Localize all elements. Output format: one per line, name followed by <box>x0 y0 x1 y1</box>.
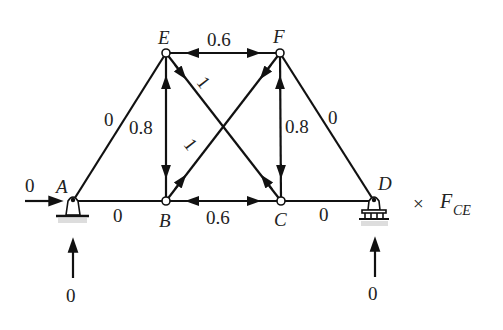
force-label-BC: 0.6 <box>206 207 230 228</box>
truss-diagram: E F A B C D 0 0 0.6 0 0.6 0.8 0.8 1 1 0 … <box>0 0 503 330</box>
node-label-F: F <box>272 26 285 47</box>
arrow-CE-upper <box>175 65 182 74</box>
arrow-BF-upper <box>264 65 271 74</box>
multiplier-F: F <box>439 190 453 212</box>
multiplier-subscript: CE <box>453 203 471 218</box>
force-label-AB: 0 <box>113 205 123 226</box>
node-label-A: A <box>54 176 68 197</box>
joint-E <box>162 49 170 57</box>
force-label-BE: 0.8 <box>129 117 153 138</box>
arrow-CE-lower <box>265 180 272 189</box>
force-label-BF: 1 <box>180 134 202 154</box>
force-label-CD: 0 <box>319 204 329 225</box>
reaction-A-vertical-label: 0 <box>66 285 76 306</box>
joint-F <box>276 49 284 57</box>
node-label-D: D <box>377 173 392 194</box>
force-label-CF: 0.8 <box>285 116 309 137</box>
force-label-CE: 1 <box>193 72 215 92</box>
reaction-D-vertical-label: 0 <box>368 283 378 304</box>
force-label-EF: 0.6 <box>207 29 231 50</box>
member-CF <box>280 53 281 201</box>
multiplier-symbol: × <box>413 193 424 214</box>
joint-C <box>277 197 285 205</box>
force-label-DF: 0 <box>328 107 338 128</box>
node-label-E: E <box>157 27 170 48</box>
node-label-C: C <box>274 209 287 230</box>
arrow-BF-lower <box>175 180 182 189</box>
node-label-B: B <box>159 210 171 231</box>
joint-B <box>162 197 170 205</box>
reaction-A-horizontal-label: 0 <box>25 175 35 196</box>
force-label-AE: 0 <box>104 109 114 130</box>
